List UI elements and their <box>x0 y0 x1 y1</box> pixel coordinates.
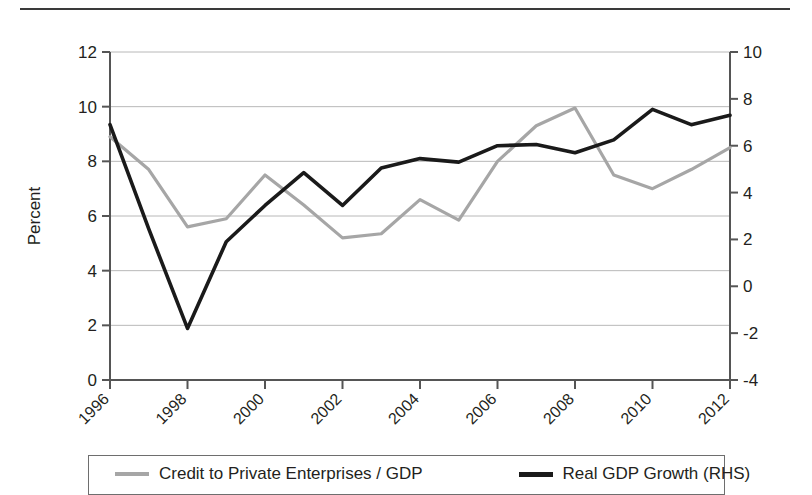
svg-text:6: 6 <box>743 137 752 156</box>
svg-text:10: 10 <box>743 43 762 62</box>
svg-text:2012: 2012 <box>695 390 732 427</box>
y-axis-right-tick-labels: -4-20246810 <box>743 43 762 390</box>
y-axis-left-ticks <box>102 52 110 380</box>
legend-color-swatch-credit <box>115 472 149 476</box>
svg-text:8: 8 <box>88 152 97 171</box>
svg-text:2006: 2006 <box>462 390 499 427</box>
svg-text:1996: 1996 <box>75 390 112 427</box>
line-chart-plot: 024681012 -4-20246810 199619982000200220… <box>0 0 812 455</box>
y-axis-title: Percent <box>25 186 44 245</box>
data-series-group <box>110 108 730 328</box>
svg-text:2010: 2010 <box>617 390 654 427</box>
legend-color-swatch-gdp-growth <box>519 472 553 477</box>
svg-text:2: 2 <box>743 230 752 249</box>
y-axis-title-group: Percent <box>25 186 44 245</box>
chart-legend: Credit to Private Enterprises / GDP Real… <box>88 455 725 495</box>
svg-text:2: 2 <box>88 316 97 335</box>
legend-item-gdp-growth: Real GDP Growth (RHS) <box>519 464 751 484</box>
svg-text:4: 4 <box>88 262 97 281</box>
svg-text:1998: 1998 <box>152 390 189 427</box>
svg-text:-4: -4 <box>743 371 758 390</box>
y-axis-left-tick-labels: 024681012 <box>78 43 97 390</box>
legend-label-credit: Credit to Private Enterprises / GDP <box>159 464 423 484</box>
svg-text:10: 10 <box>78 98 97 117</box>
x-axis-tick-labels: 199619982000200220042006200820102012 <box>75 390 732 427</box>
svg-text:2000: 2000 <box>230 390 267 427</box>
legend-item-credit: Credit to Private Enterprises / GDP <box>115 464 423 484</box>
svg-text:6: 6 <box>88 207 97 226</box>
svg-text:0: 0 <box>743 277 752 296</box>
svg-text:8: 8 <box>743 90 752 109</box>
legend-label-gdp-growth: Real GDP Growth (RHS) <box>563 464 751 484</box>
svg-text:0: 0 <box>88 371 97 390</box>
x-axis-ticks <box>110 380 730 389</box>
svg-text:2004: 2004 <box>385 390 422 427</box>
svg-text:2008: 2008 <box>540 390 577 427</box>
svg-text:2002: 2002 <box>307 390 344 427</box>
svg-text:-2: -2 <box>743 324 758 343</box>
y-axis-right-ticks <box>730 52 738 380</box>
svg-text:4: 4 <box>743 184 752 203</box>
gridlines-group <box>110 52 730 380</box>
svg-text:12: 12 <box>78 43 97 62</box>
